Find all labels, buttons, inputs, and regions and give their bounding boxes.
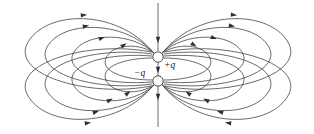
arrow-lower-right-4	[225, 120, 232, 125]
lower-right-field-lines	[161, 49, 291, 120]
negative-charge-label: −q	[134, 68, 145, 78]
charge-labels: +q −q	[134, 60, 175, 78]
arrow-lower-left-2	[106, 97, 114, 104]
positive-charge-marker[interactable]	[153, 52, 163, 62]
arrow-axis-bottom	[156, 94, 160, 100]
field-diagram-canvas: +q −q	[0, 0, 314, 134]
arrow-upper-left-3	[82, 23, 89, 29]
upper-right-field-lines	[161, 19, 291, 90]
lower-left-field-lines	[25, 49, 155, 120]
field-line-lower-left-2	[72, 55, 154, 101]
arrow-lower-left-1	[124, 89, 132, 96]
arrow-upper-right-4	[231, 12, 238, 17]
arrow-upper-left-1	[120, 41, 128, 48]
arrow-lower-right-1	[184, 89, 192, 96]
arrow-lower-left-3	[92, 109, 99, 115]
arrow-upper-left-2	[98, 35, 105, 41]
arrow-lower-left-4	[85, 120, 92, 125]
positive-charge-label: +q	[164, 60, 175, 70]
dipole-field-diagram: +q −q	[0, 0, 314, 134]
arrow-axis-middle	[156, 67, 160, 73]
arrow-axis-top	[156, 37, 160, 43]
field-arrowheads	[81, 12, 238, 125]
negative-charge-marker[interactable]	[153, 76, 163, 86]
arrow-upper-left-4	[81, 12, 88, 17]
upper-left-field-lines	[25, 19, 155, 90]
arrow-lower-right-2	[202, 97, 210, 104]
arrow-lower-right-3	[216, 109, 223, 115]
